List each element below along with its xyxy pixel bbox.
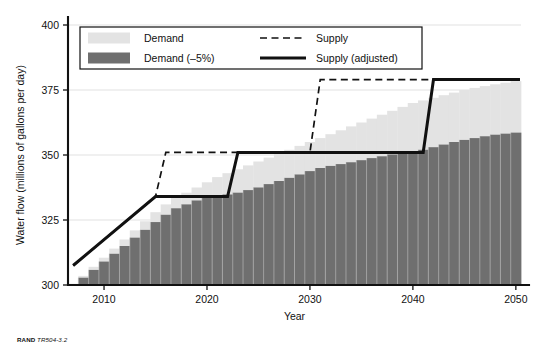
bar-demand-reduced-2032 xyxy=(325,166,336,285)
bar-demand-reduced-2034 xyxy=(346,162,357,285)
bar-demand-reduced-2018 xyxy=(181,204,192,285)
bar-demand-reduced-2031 xyxy=(315,168,326,285)
bar-demand-reduced-2026 xyxy=(264,184,275,285)
legend-label-0-1: Supply xyxy=(316,32,349,44)
x-tick-label-2020: 2020 xyxy=(195,293,219,305)
bar-demand-reduced-2008 xyxy=(78,278,89,285)
bar-demand-reduced-2035 xyxy=(356,160,367,285)
bar-demand-reduced-2033 xyxy=(336,164,347,285)
y-tick-label-400: 400 xyxy=(41,19,59,31)
legend-swatch-1 xyxy=(88,53,130,64)
y-tick-label-375: 375 xyxy=(41,84,59,96)
bar-demand-reduced-2009 xyxy=(89,270,100,285)
chart-legend: DemandSupplyDemand (–5%)Supply (adjusted… xyxy=(80,27,422,69)
bar-demand-reduced-2050 xyxy=(511,133,522,285)
bar-demand-reduced-2047 xyxy=(480,136,491,285)
bar-demand-reduced-2016 xyxy=(161,215,172,285)
bar-demand-reduced-2037 xyxy=(377,156,388,285)
figure-credit: RAND TR504-3.2 xyxy=(17,336,67,343)
bar-demand-reduced-2022 xyxy=(222,195,233,285)
y-axis-label: Water flow (millions of gallons per day) xyxy=(14,65,26,245)
bar-demand-reduced-2024 xyxy=(243,190,254,285)
bar-demand-reduced-2039 xyxy=(397,153,408,285)
y-tick-label-350: 350 xyxy=(41,149,59,161)
bar-demand-reduced-2019 xyxy=(192,201,203,286)
bar-demand-reduced-2023 xyxy=(233,193,244,285)
x-tick-label-2040: 2040 xyxy=(401,293,425,305)
bar-demand-reduced-2030 xyxy=(305,171,316,285)
y-tick-label-325: 325 xyxy=(41,214,59,226)
bar-demand-reduced-2046 xyxy=(470,138,481,285)
x-tick-label-2030: 2030 xyxy=(298,293,322,305)
legend-label-0-0: Demand xyxy=(144,32,184,44)
bar-demand-reduced-2045 xyxy=(459,140,470,285)
bar-demand-reduced-2025 xyxy=(253,188,264,286)
x-tick-label-2010: 2010 xyxy=(92,293,116,305)
bar-demand-reduced-2012 xyxy=(119,246,130,285)
figure-container: 300325350375400 20102020203020402050 Dem… xyxy=(0,0,541,359)
bar-demand-reduced-2041 xyxy=(418,150,429,285)
legend-swatch-0 xyxy=(88,33,130,44)
legend-label-1-0: Demand (–5%) xyxy=(144,52,215,64)
bar-demand-reduced-2038 xyxy=(387,154,398,285)
bar-demand-reduced-2015 xyxy=(150,222,161,285)
y-tick-label-300: 300 xyxy=(41,279,59,291)
bar-demand-reduced-2044 xyxy=(449,142,460,285)
bar-demand-reduced-2014 xyxy=(140,230,151,285)
bar-demand-reduced-2020 xyxy=(202,198,213,285)
credit-ref: TR504-3.2 xyxy=(37,336,67,343)
bar-demand-reduced-2042 xyxy=(428,147,439,285)
x-axis-label: Year xyxy=(284,310,306,322)
bar-demand-reduced-2049 xyxy=(500,134,511,285)
bar-demand-reduced-2029 xyxy=(295,175,306,286)
bar-demand-reduced-2040 xyxy=(408,152,419,285)
bar-demand-reduced-2027 xyxy=(274,181,285,285)
water-supply-demand-chart: 300325350375400 20102020203020402050 Dem… xyxy=(0,0,541,359)
legend-label-1-1: Supply (adjusted) xyxy=(316,52,398,64)
bar-demand-reduced-2021 xyxy=(212,196,223,285)
bar-demand-reduced-2028 xyxy=(284,178,295,285)
bar-demand-reduced-2013 xyxy=(130,238,141,285)
bar-demand-reduced-2010 xyxy=(99,262,110,285)
x-tick-label-2050: 2050 xyxy=(504,293,528,305)
bar-demand-reduced-2036 xyxy=(367,158,378,285)
bar-demand-reduced-2017 xyxy=(171,208,182,285)
bar-demand-reduced-2043 xyxy=(439,145,450,285)
bar-demand-reduced-2048 xyxy=(490,135,501,285)
credit-org: RAND xyxy=(17,336,35,343)
bar-demand-reduced-2011 xyxy=(109,254,120,285)
